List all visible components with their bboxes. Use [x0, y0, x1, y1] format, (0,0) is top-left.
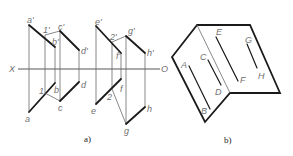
- label-e: e: [91, 106, 96, 116]
- line-AB: [189, 66, 210, 109]
- label-c-prime: c': [58, 22, 65, 32]
- label-1-prime: 1': [43, 25, 50, 35]
- label-E: E: [216, 27, 223, 37]
- label-d: d: [81, 80, 87, 90]
- line-GH: [247, 44, 257, 68]
- label-2-prime: 2': [109, 32, 117, 42]
- label-C: C: [200, 52, 207, 62]
- label-b: b: [54, 85, 59, 95]
- label-1: 1: [39, 86, 44, 96]
- label-H: H: [258, 71, 265, 81]
- line-CD: [208, 60, 221, 85]
- line-EF: [216, 37, 238, 81]
- label-2: 2: [106, 92, 112, 102]
- label-g: g: [124, 126, 129, 136]
- line-2g-top: [112, 89, 126, 124]
- label-a-prime: a': [27, 15, 34, 25]
- axis-label-x: X: [8, 64, 16, 74]
- line-cd-front: [60, 31, 79, 50]
- line-cd-top: [60, 82, 79, 101]
- caption-b: b): [224, 135, 232, 145]
- label-G: G: [245, 35, 252, 45]
- label-b-prime: b': [52, 37, 59, 47]
- label-h-prime: h': [147, 48, 154, 58]
- axis-label-o: O: [161, 64, 168, 74]
- label-D: D: [215, 87, 222, 97]
- label-A: A: [180, 60, 187, 70]
- line-gh-top: [126, 107, 145, 124]
- figure-a: X O a' 1' b' c' d' e' 2' f': [8, 15, 168, 144]
- figure-b: A B C D E F G H b): [172, 25, 280, 145]
- label-f: f: [120, 84, 124, 94]
- label-c: c: [58, 103, 63, 113]
- label-d-prime: d': [81, 46, 88, 56]
- label-h: h: [147, 104, 152, 114]
- label-a: a: [25, 114, 30, 124]
- label-e-prime: e': [95, 17, 102, 27]
- label-B: B: [201, 106, 207, 116]
- label-f-prime: f': [116, 51, 121, 61]
- line-gh-front: [126, 36, 145, 53]
- caption-a: a): [84, 134, 91, 144]
- label-g-prime: g': [128, 26, 135, 36]
- label-F: F: [240, 75, 246, 85]
- projection-diagram: X O a' 1' b' c' d' e' 2' f': [0, 0, 293, 156]
